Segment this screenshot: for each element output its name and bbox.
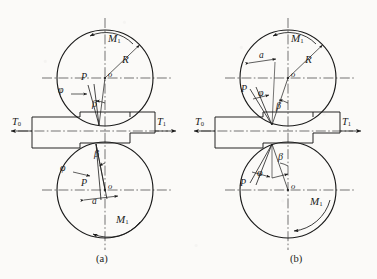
label-torque-bottom-b: M1 [310,196,323,208]
label-force-p-top-a: P [81,72,87,82]
offset-construction-line-top-b [272,62,275,125]
label-beta-bottom-a: β [94,149,99,159]
label-phi-top-b: φ [258,88,264,98]
label-center-bottom-b: o [291,182,295,191]
label-force-p-bottom-a: P [81,178,87,188]
rolling-mill-force-diagram [0,0,377,279]
beta-arc-bottom-b [280,163,288,166]
label-phi-top-a: φ [58,85,64,95]
panel-b [194,18,361,250]
strip-exit-a [130,112,155,133]
strip-exit-b [313,112,340,133]
label-beta-top-a: β [92,99,97,109]
label-tension-T1-a: T1 [157,117,166,128]
label-radius-top-b: R [305,54,312,65]
strip-upper-profile-b [215,112,313,117]
beta-arc-top-a [96,101,105,103]
caption-panel-b: (b) [290,253,302,264]
label-force-p-top-b: P [241,84,247,94]
strip-lower-profile-b [215,117,313,148]
offset-arrow-bottom-b [272,174,288,178]
label-torque-top-b: M1 [291,33,304,45]
label-center-bottom-a: o [108,182,112,191]
label-torque-bottom-a: M1 [116,214,129,226]
label-force-p-bottom-b: P [240,178,246,188]
label-tension-T0-a: T0 [12,117,21,128]
label-offset-a-bottom-a: a [92,197,97,207]
label-tension-T1-b: T1 [342,117,351,128]
label-offset-a-top-b: a [259,51,264,61]
force-p-line2-bottom-b [256,144,272,185]
caption-panel-a: (a) [96,253,108,264]
label-beta-bottom-b: β [278,152,283,162]
label-phi-bottom-b: φ [257,168,263,178]
label-center-top-a: o [108,70,112,79]
phi-arrow-bottom-a [73,172,90,176]
label-phi-bottom-a: φ [60,163,66,173]
label-center-top-b: o [291,70,295,79]
strip-upper-profile-a [32,112,130,117]
label-radius-top-a: R [122,54,129,65]
label-beta-top-b: β [276,101,281,111]
label-torque-top-a: M1 [108,33,121,45]
panel-a [11,18,176,250]
strip-lower-profile-a [32,117,130,148]
label-tension-T0-b: T0 [195,117,204,128]
